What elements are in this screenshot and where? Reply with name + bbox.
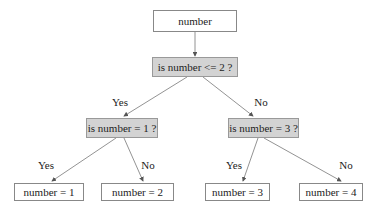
edge-label-d3-yes: Yes [226,159,242,171]
node-l4-label: number = 4 [306,186,357,198]
edge-d2-l1 [52,138,116,181]
node-root: number [153,10,237,32]
node-d1-label: is number <= 2 ? [158,61,233,73]
node-root-label: number [178,15,212,27]
node-decision-eq1: is number = 1 ? [86,118,158,138]
node-decision-eq3: is number = 3 ? [228,118,299,138]
edge-d3-l3 [243,138,258,181]
edge-d3-l4 [264,138,341,181]
edge-d1-d2 [124,77,187,116]
edge-label-d2-yes: Yes [38,159,54,171]
node-leaf-1: number = 1 [14,183,84,201]
node-l1-label: number = 1 [24,186,75,198]
node-l3-label: number = 3 [212,186,263,198]
edge-label-d2-no: No [141,159,154,171]
node-decision-le2: is number <= 2 ? [152,57,238,77]
node-d2-label: is number = 1 ? [88,122,157,134]
node-d3-label: is number = 3 ? [229,122,298,134]
edge-label-d1-no: No [254,96,267,108]
node-l2-label: number = 2 [112,186,163,198]
edge-label-d1-yes: Yes [112,96,128,108]
edge-d1-d3 [203,77,253,116]
edge-label-d3-no: No [339,159,352,171]
node-leaf-4: number = 4 [299,183,363,201]
edge-d2-l2 [124,138,143,181]
node-leaf-2: number = 2 [101,183,174,201]
node-leaf-3: number = 3 [205,183,270,201]
